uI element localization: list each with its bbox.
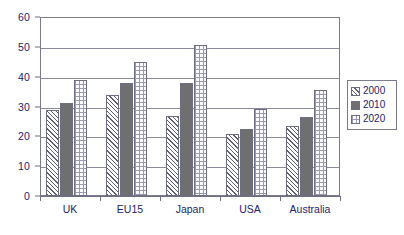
x-category-label: Japan	[176, 203, 205, 215]
bar	[194, 45, 207, 196]
bar	[226, 134, 239, 196]
legend-item[interactable]: 2010	[351, 98, 393, 112]
x-category-label: USA	[239, 203, 261, 215]
legend-item[interactable]: 2000	[351, 84, 393, 98]
bar-chart: 0102030405060 UKEU15JapanUSAAustralia 20…	[0, 0, 404, 235]
solid-swatch	[351, 101, 360, 110]
x-tick-mark	[340, 196, 341, 201]
y-tick-label: 50	[18, 41, 30, 53]
y-tick-label: 60	[18, 11, 30, 23]
x-category-label: Australia	[290, 203, 331, 215]
x-category-label: EU15	[117, 203, 143, 215]
bar	[46, 110, 59, 196]
bar-group	[220, 17, 280, 196]
legend-item[interactable]: 2020	[351, 112, 393, 126]
bar	[166, 116, 179, 196]
hatch-swatch	[351, 87, 360, 96]
bar	[60, 103, 73, 196]
bar-group	[100, 17, 160, 196]
legend: 200020102020	[347, 80, 397, 130]
x-tick-mark	[40, 196, 41, 201]
y-tick-label: 20	[18, 130, 30, 142]
bar-group	[280, 17, 340, 196]
y-tick-label: 10	[18, 160, 30, 172]
bar	[74, 80, 87, 196]
bar-group	[160, 17, 220, 196]
x-category-label: UK	[63, 203, 78, 215]
y-axis: 0102030405060	[0, 0, 40, 235]
bar	[120, 83, 133, 196]
legend-label: 2010	[363, 100, 385, 110]
bar	[106, 95, 119, 196]
bar	[300, 117, 313, 196]
x-tick-mark	[220, 196, 221, 201]
bar	[286, 126, 299, 196]
bars-layer	[40, 17, 340, 196]
x-tick-mark	[160, 196, 161, 201]
y-tick-label: 40	[18, 71, 30, 83]
y-tick-label: 0	[24, 190, 30, 202]
dotted-swatch	[351, 115, 360, 124]
bar	[254, 109, 267, 196]
y-tick-label: 30	[18, 101, 30, 113]
legend-label: 2020	[363, 114, 385, 124]
bar	[240, 129, 253, 196]
bar	[134, 62, 147, 196]
bar	[180, 83, 193, 196]
legend-label: 2000	[363, 86, 385, 96]
x-axis-line	[40, 196, 340, 197]
x-tick-mark	[280, 196, 281, 201]
bar-group	[40, 17, 100, 196]
bar	[314, 90, 327, 196]
x-tick-mark	[100, 196, 101, 201]
